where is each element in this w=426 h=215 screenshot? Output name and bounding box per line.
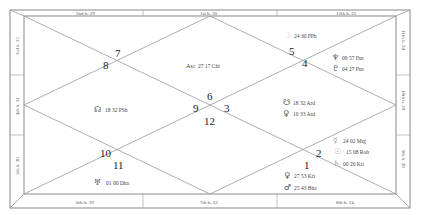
planet-mars: ♂ 25 43 Bha (284, 183, 317, 192)
rahu-icon: ☊ (94, 105, 101, 114)
planet-label: 18 32 Ard (293, 100, 315, 106)
planet-asc: Asc 27 17 Chi (186, 63, 220, 69)
planet-label: 00 20 Kri (343, 161, 365, 167)
house-number-9: 9 (193, 102, 199, 114)
planet-moon: ☽ 24 30 PPh (284, 31, 317, 40)
corner-tr (396, 10, 410, 16)
planet-label: 25 43 Bha (294, 185, 317, 191)
neptune-icon: ♆ (332, 53, 339, 62)
mars-icon: ♂ (284, 183, 291, 192)
planet-venus: ♀ 27 53 Kri (284, 171, 316, 180)
planet-label: 09 57 Pus (342, 55, 364, 61)
house-number-3: 3 (224, 102, 230, 114)
planet-label: 27 17 Chi (198, 63, 220, 69)
planet-pluto: ♇ 04 27 Pus (332, 64, 364, 73)
strip-label-top-2: 12th h. 22 (336, 11, 357, 16)
corner-tl (10, 10, 24, 16)
planet-label: 10 33 Ard (293, 111, 315, 117)
strip-label-bottom-1: 7th h. 32 (200, 200, 218, 205)
planet-uranus: ♅ 01 00 Dha (94, 178, 129, 187)
planet-label: 01 00 Dha (106, 180, 129, 186)
planet-label: 27 53 Kri (294, 173, 316, 179)
outer-frame (10, 10, 410, 208)
planet-sun: ☉ 15 08 Roh (334, 147, 369, 156)
planet-jupiter: ♀ 10 33 Ard (283, 109, 315, 118)
house-number-4: 4 (302, 57, 308, 69)
strip-label-bottom-0: 6th h. 39 (76, 200, 94, 205)
planet-ketu: ☋ 18 32 Ard (283, 98, 315, 107)
house-number-1: 1 (304, 159, 310, 171)
moon-icon: ☽ (284, 31, 291, 40)
strip-label-top-0: 2nd h. 29 (76, 11, 95, 16)
mercury-icon: ☿ (333, 136, 338, 145)
planet-mercury: ☿ 24 02 Mrg (333, 136, 366, 145)
asc-icon: Asc (186, 63, 196, 69)
planet-label: 18 32 PSh (105, 107, 128, 113)
planet-neptune: ♆ 09 57 Pus (332, 53, 364, 62)
planet-label: 24 02 Mrg (343, 138, 366, 144)
planet-label: 15 08 Roh (346, 149, 369, 155)
strip-label-top-1: 1st h. 30 (200, 11, 218, 16)
venus-icon: ♀ (284, 171, 290, 180)
house-number-8: 8 (103, 59, 109, 71)
uranus-icon: ♅ (94, 178, 101, 187)
corner-br (396, 194, 410, 208)
house-number-7: 7 (115, 47, 121, 59)
north-indian-chart: 2nd h. 29 1st h. 30 12th h. 22 6th h. 39… (0, 0, 426, 215)
planet-saturn: ♄ 00 20 Kri (333, 159, 365, 168)
planet-label: 04 27 Pus (342, 66, 364, 72)
strip-label-left-1: 4th h. 31 (15, 97, 20, 115)
ketu-icon: ☋ (283, 98, 290, 107)
planet-label: 24 30 PPh (294, 33, 317, 39)
strip-label-right-2: 9th h. 28 (401, 150, 406, 168)
corner-bl (10, 194, 24, 208)
house-number-2: 2 (316, 147, 322, 159)
house-number-10: 10 (100, 147, 112, 159)
house-number-11: 11 (113, 159, 124, 171)
strip-label-right-1: 10th h. 29 (401, 90, 406, 111)
house-number-6: 6 (207, 90, 213, 102)
pluto-icon: ♇ (332, 64, 339, 73)
strip-label-bottom-2: 8th h. 24 (336, 200, 354, 205)
strip-label-right-0: 11th h. 24 (401, 30, 406, 50)
strip-label-left-2: 5th h. 30 (15, 157, 20, 175)
house-number-12: 12 (204, 115, 215, 127)
planet-rahu: ☊ 18 32 PSh (94, 105, 128, 114)
sun-icon: ☉ (334, 147, 341, 156)
jupiter-icon: ♀ (283, 109, 289, 118)
saturn-icon: ♄ (333, 159, 340, 168)
strip-label-left-0: 3rd h. 25 (15, 37, 20, 55)
house-number-5: 5 (289, 45, 295, 57)
